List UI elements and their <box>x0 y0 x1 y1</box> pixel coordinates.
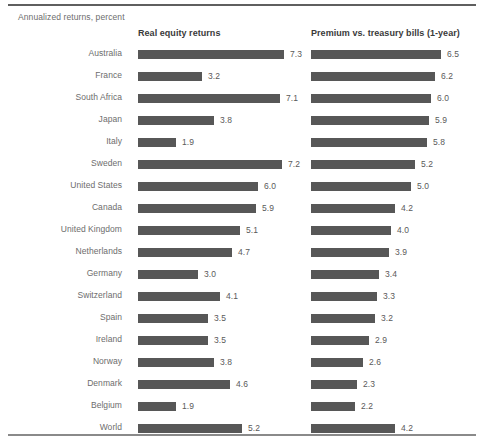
bar-value-label: 5.9 <box>262 203 274 213</box>
chart-row: South Africa7.16.0 <box>0 89 484 111</box>
row-label-belgium: Belgium <box>0 400 122 410</box>
row-label-ireland: Ireland <box>0 334 122 344</box>
row-label-spain: Spain <box>0 312 122 322</box>
bar <box>311 50 441 59</box>
chart-row: Germany3.03.4 <box>0 265 484 287</box>
bar <box>138 248 232 257</box>
chart-row: Ireland3.52.9 <box>0 331 484 353</box>
row-label-sweden: Sweden <box>0 158 122 168</box>
bar <box>311 72 435 81</box>
bar-value-label: 5.2 <box>421 159 433 169</box>
bar <box>138 182 258 191</box>
chart-row: Sweden7.25.2 <box>0 155 484 177</box>
bar-value-label: 6.2 <box>441 71 453 81</box>
chart-row: Netherlands4.73.9 <box>0 243 484 265</box>
chart-rows: Australia7.36.5France3.26.2South Africa7… <box>0 45 484 441</box>
chart-subtitle: Annualized returns, percent <box>18 12 125 22</box>
bar-value-label: 5.0 <box>417 181 429 191</box>
bar-value-label: 4.1 <box>226 291 238 301</box>
row-label-united-states: United States <box>0 180 122 190</box>
row-label-world: World <box>0 422 122 432</box>
bar-value-label: 7.3 <box>290 49 302 59</box>
row-label-united-kingdom: United Kingdom <box>0 224 122 234</box>
bar <box>311 380 357 389</box>
bar-value-label: 4.2 <box>401 423 413 433</box>
bar <box>138 358 214 367</box>
bar-value-label: 3.0 <box>204 269 216 279</box>
bar <box>311 160 415 169</box>
bar <box>311 402 355 411</box>
bar <box>138 292 220 301</box>
chart-row: Australia7.36.5 <box>0 45 484 67</box>
bar <box>311 424 395 433</box>
row-label-switzerland: Switzerland <box>0 290 122 300</box>
bar <box>311 116 429 125</box>
column-header-real-equity-returns: Real equity returns <box>138 28 220 38</box>
bar-value-label: 3.2 <box>381 313 393 323</box>
bar <box>138 50 284 59</box>
bar-value-label: 5.8 <box>433 137 445 147</box>
row-label-france: France <box>0 70 122 80</box>
bottom-rule <box>8 434 476 436</box>
chart-row: France3.26.2 <box>0 67 484 89</box>
row-label-australia: Australia <box>0 48 122 58</box>
bar <box>138 72 202 81</box>
bar-value-label: 2.2 <box>361 401 373 411</box>
column-header-premium-vs-treasury-bills: Premium vs. treasury bills (1-year) <box>311 28 460 38</box>
chart-row: Norway3.82.6 <box>0 353 484 375</box>
bar <box>311 204 395 213</box>
bar <box>311 182 411 191</box>
bar-value-label: 3.3 <box>383 291 395 301</box>
bar-value-label: 3.5 <box>214 335 226 345</box>
chart-row: Canada5.94.2 <box>0 199 484 221</box>
bar <box>138 314 208 323</box>
bar <box>138 226 240 235</box>
chart-row: Belgium1.92.2 <box>0 397 484 419</box>
bar <box>138 380 230 389</box>
bar-value-label: 1.9 <box>182 401 194 411</box>
row-label-south-africa: South Africa <box>0 92 122 102</box>
chart-row: United Kingdom5.14.0 <box>0 221 484 243</box>
bar <box>311 336 369 345</box>
bar <box>138 270 198 279</box>
chart-row: Japan3.85.9 <box>0 111 484 133</box>
bar-value-label: 3.4 <box>385 269 397 279</box>
bar <box>311 248 389 257</box>
top-rule <box>8 4 476 6</box>
bar-value-label: 6.0 <box>437 93 449 103</box>
bar <box>311 94 431 103</box>
bar-value-label: 5.2 <box>248 423 260 433</box>
bar-value-label: 7.2 <box>288 159 300 169</box>
bar <box>138 138 176 147</box>
chart-row: Switzerland4.13.3 <box>0 287 484 309</box>
bar <box>138 204 256 213</box>
bar-value-label: 2.6 <box>369 357 381 367</box>
bar-value-label: 2.3 <box>363 379 375 389</box>
bar <box>311 314 375 323</box>
bar-value-label: 3.8 <box>220 115 232 125</box>
bar <box>138 116 214 125</box>
bar <box>311 292 377 301</box>
bar-value-label: 5.9 <box>435 115 447 125</box>
bar <box>311 270 379 279</box>
chart-row: Denmark4.62.3 <box>0 375 484 397</box>
chart-row: World5.24.2 <box>0 419 484 441</box>
bar-value-label: 3.5 <box>214 313 226 323</box>
row-label-japan: Japan <box>0 114 122 124</box>
bar <box>311 358 363 367</box>
bar <box>138 424 242 433</box>
row-label-canada: Canada <box>0 202 122 212</box>
bar <box>138 402 176 411</box>
bar-value-label: 2.9 <box>375 335 387 345</box>
bar-value-label: 3.2 <box>208 71 220 81</box>
bar-value-label: 3.9 <box>395 247 407 257</box>
bar <box>311 138 427 147</box>
row-label-netherlands: Netherlands <box>0 246 122 256</box>
bar-value-label: 6.0 <box>264 181 276 191</box>
row-label-norway: Norway <box>0 356 122 366</box>
bar <box>138 336 208 345</box>
row-label-denmark: Denmark <box>0 378 122 388</box>
bar-value-label: 7.1 <box>286 93 298 103</box>
chart-row: Spain3.53.2 <box>0 309 484 331</box>
bar <box>311 226 391 235</box>
